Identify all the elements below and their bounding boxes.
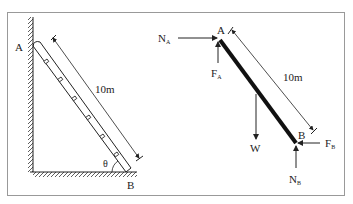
ladder: [33, 42, 131, 173]
right-length-dimension: [228, 27, 317, 134]
figure-frame: [8, 13, 345, 196]
left-point-b-label: B: [127, 179, 134, 191]
left-length-label: 10m: [95, 83, 115, 95]
angle-arc: [112, 161, 118, 172]
length-dimension: [51, 35, 143, 161]
left-figure: 10m θ A B: [15, 17, 143, 191]
normal-b-label: NB: [289, 173, 301, 186]
weight-label: W: [250, 142, 261, 154]
right-figure: 10m NA FA A W B FB NB: [158, 24, 335, 186]
ladder-diagram: 10m θ A B 10m NA FA A W B FB N: [0, 0, 353, 204]
ladder-bar: [220, 40, 296, 143]
right-length-label: 10m: [283, 71, 303, 83]
floor-hatching: [33, 172, 137, 177]
right-point-b-label: B: [298, 129, 305, 141]
left-point-a-label: A: [15, 41, 23, 53]
angle-label: θ: [103, 158, 108, 169]
friction-b-label: FB: [325, 137, 335, 150]
friction-a-label: FA: [211, 67, 222, 80]
wall-hatching: [28, 17, 33, 172]
right-point-a-label: A: [217, 24, 225, 36]
normal-a-label: NA: [158, 32, 171, 45]
